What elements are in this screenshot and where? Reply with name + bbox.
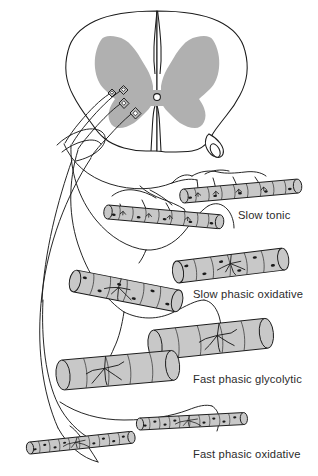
muscle-fiber-slow-tonic-lower bbox=[103, 205, 224, 229]
axon-slow-tonic-lower-feeder-2 bbox=[150, 190, 172, 205]
muscle-fiber-fast-oxid-lower bbox=[26, 431, 136, 454]
axon-slow-phasic-to-lower-fiber bbox=[139, 250, 146, 263]
fiber-body bbox=[177, 248, 285, 283]
fiber-cut-end bbox=[240, 412, 248, 424]
motor-unit-diagram: Slow tonic bbox=[0, 0, 318, 476]
muscle-group-fast-phasic-glycolytic: Fast phasic glycolytic bbox=[55, 318, 303, 391]
axon-slow-tonic-lower-feeder bbox=[140, 186, 184, 209]
label-slow-tonic: Slow tonic bbox=[238, 209, 291, 221]
muscle-group-slow-phasic-oxidative: Slow phasic oxidative bbox=[68, 247, 304, 312]
label-slow-phasic-oxidative: Slow phasic oxidative bbox=[193, 288, 303, 300]
fiber-near-end bbox=[136, 418, 144, 430]
fiber-body bbox=[62, 350, 174, 389]
central-canal bbox=[154, 94, 161, 101]
muscle-group-fast-phasic-oxidative: Fast phasic oxidative bbox=[26, 412, 301, 460]
muscle-group-slow-tonic: Slow tonic bbox=[103, 179, 302, 229]
muscle-fiber-slow-phasic-upper bbox=[171, 247, 290, 283]
axon-fast-glyco-to-lower bbox=[108, 312, 124, 360]
axon-slow-tonic-feeder-upper bbox=[192, 171, 266, 176]
spinal-cord-cross-section bbox=[66, 11, 247, 159]
label-fast-phasic-glycolytic: Fast phasic glycolytic bbox=[193, 373, 302, 385]
axon-slow-tonic-lower-arc bbox=[112, 190, 156, 198]
axon-fast-oxid-second bbox=[42, 160, 72, 302]
fiber-body bbox=[73, 270, 179, 311]
ventral-root-sheath-left-inner bbox=[62, 140, 101, 152]
label-fast-phasic-oxidative: Fast phasic oxidative bbox=[193, 448, 301, 460]
fiber-body bbox=[29, 431, 132, 454]
diagram-canvas: Slow tonic bbox=[0, 0, 318, 476]
muscle-fiber-slow-phasic-lower bbox=[68, 269, 185, 313]
muscle-fiber-fast-glyco-lower bbox=[55, 350, 181, 391]
fiber-body bbox=[107, 205, 220, 229]
muscle-fiber-fast-oxid-upper bbox=[136, 412, 248, 430]
axon-slow-phasic-main bbox=[71, 145, 146, 250]
